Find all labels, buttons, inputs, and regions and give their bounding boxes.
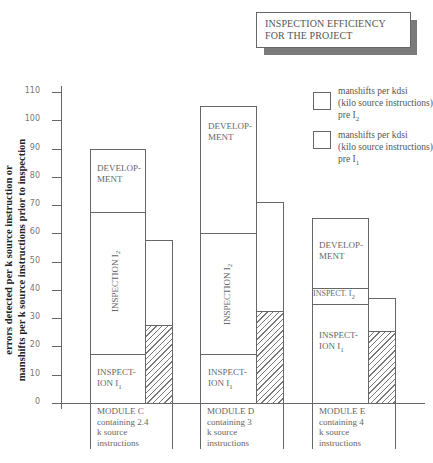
module-c-label: MODULE Ccontaining 2.4k sourceinstructio… [97, 406, 149, 448]
y-axis-line [61, 86, 62, 409]
legend-item-pre-i2: manshifts per kdsi (kilo source instruct… [338, 85, 433, 125]
label-inspection-i2: INSPECTION I2 [110, 236, 123, 326]
bar-module-d-pre-i1 [256, 311, 284, 404]
y-tick-label: 100 [16, 114, 40, 123]
y-tick-mark [52, 205, 61, 206]
module-d-label: MODULE Dcontaining 3k sourceinstructions [207, 406, 254, 448]
module-c-right-line [172, 403, 173, 449]
module-e-left-line [312, 403, 313, 449]
y-tick-mark [52, 403, 61, 404]
y-tick-mark [52, 346, 61, 347]
y-tick-label: 90 [16, 143, 40, 152]
bar-module-c-pre-i2 [145, 240, 173, 326]
y-tick-label: 80 [16, 171, 40, 180]
legend-text: manshifts per kdsi [338, 85, 433, 97]
module-c-left-line [90, 403, 91, 449]
y-tick-label: 50 [16, 256, 40, 265]
label-inspection-i1: INSPECT-ION I1 [208, 367, 247, 393]
module-d-right-line [283, 403, 284, 449]
module-d-left-line [200, 403, 201, 449]
bar-module-e-pre-i2 [368, 298, 396, 332]
legend-swatch-plain [313, 92, 331, 110]
legend-swatch-hatched [313, 131, 331, 149]
bar-module-d-pre-i2 [256, 202, 284, 312]
bar-module-c-pre-i1 [145, 325, 173, 404]
bar-module-e-pre-i1 [368, 331, 396, 404]
y-tick-label: 10 [16, 369, 40, 378]
label-development: DEVELOP-MENT [319, 240, 363, 262]
label-inspection-i1: INSPECT-ION I1 [97, 367, 136, 393]
y-tick-label: 70 [16, 199, 40, 208]
title-line-2: FOR THE PROJECT [265, 30, 410, 42]
label-development: DEVELOP-MENT [97, 163, 141, 185]
legend-text: (kilo source instructions) [338, 97, 433, 109]
y-tick-mark [52, 149, 61, 150]
y-tick-label: 110 [16, 86, 40, 95]
module-e-label: MODULE Econtaining 4k sourceinstructions [319, 406, 365, 448]
y-tick-label: 0 [16, 397, 40, 406]
y-axis-label-line-1: errors detected per k source instruction… [2, 100, 15, 420]
legend-text: pre I [338, 110, 356, 120]
y-tick-label: 60 [16, 227, 40, 236]
y-tick-label: 30 [16, 312, 40, 321]
label-inspection-i2: INSPECTION I2 [222, 249, 235, 339]
y-tick-label: 40 [16, 284, 40, 293]
legend-text: pre I [338, 154, 356, 164]
label-development: DEVELOP-MENT [208, 121, 252, 143]
y-tick-mark [52, 92, 61, 93]
legend-subscript: 1 [356, 159, 360, 167]
legend-text: manshifts per kdsi [338, 129, 433, 141]
y-tick-mark [52, 233, 61, 234]
y-tick-label: 20 [16, 340, 40, 349]
chart-title: INSPECTION EFFICIENCY FOR THE PROJECT [256, 12, 411, 48]
y-tick-mark [52, 375, 61, 376]
y-tick-mark [52, 177, 61, 178]
title-line-1: INSPECTION EFFICIENCY [265, 18, 410, 30]
legend-subscript: 2 [356, 115, 360, 123]
module-e-right-line [395, 403, 396, 449]
label-inspection-i1: INSPECT-ION I1 [319, 330, 358, 356]
y-tick-mark [52, 120, 61, 121]
y-tick-mark [52, 290, 61, 291]
legend-item-pre-i1: manshifts per kdsi (kilo source instruct… [338, 129, 433, 169]
y-tick-mark [52, 262, 61, 263]
legend-text: (kilo source instructions) [338, 141, 433, 153]
y-tick-mark [52, 318, 61, 319]
label-inspection-i2: INSPECT. I2 [313, 289, 355, 302]
